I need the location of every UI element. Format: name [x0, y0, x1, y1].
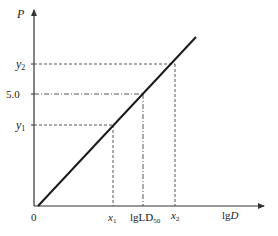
origin-label: 0	[31, 211, 37, 223]
ld50-y-label: 5.0	[6, 88, 20, 100]
y1-label: y1	[15, 118, 25, 133]
y-axis-label: P	[16, 7, 25, 21]
x-axis-label: lgD	[222, 209, 239, 221]
y2-label: y2	[15, 57, 25, 72]
dose-response-diagram: P y2 5.0 y1 0 x1 lgLD50 x2 lgD	[0, 0, 278, 236]
ld50-x-label: lgLD50	[130, 211, 161, 225]
dose-response-line	[38, 37, 196, 206]
x2-label: x2	[170, 209, 180, 223]
x1-label: x1	[107, 211, 117, 225]
